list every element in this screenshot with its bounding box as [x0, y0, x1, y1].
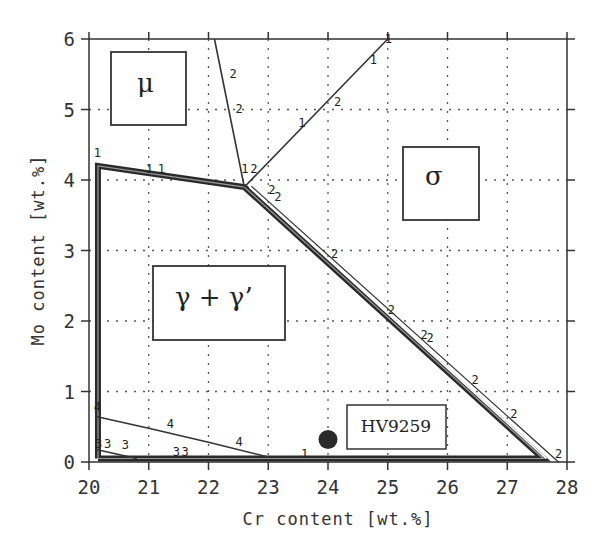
y-tick-label: 2 — [64, 310, 75, 332]
boundary-number-label: 4 — [235, 435, 242, 449]
y-tick-label: 1 — [64, 381, 75, 403]
boundary-number-label: 2 — [250, 162, 257, 176]
x-tick-label: 26 — [436, 476, 459, 498]
sample-point-marker — [319, 430, 338, 449]
boundary-number-label: 3 — [182, 445, 189, 459]
boundary-number-label: 3 — [95, 437, 102, 451]
sample-label: HV9259 — [361, 416, 431, 436]
y-tick-label: 3 — [64, 240, 75, 262]
boundary-number-label: 1 — [385, 32, 392, 46]
y-tick-label: 6 — [64, 28, 75, 50]
boundary-number-label: 3 — [173, 445, 180, 459]
boundary-number-label: 2 — [510, 407, 517, 421]
phase-diagram: 202122232425262728 0123456 1112212221211… — [0, 0, 614, 549]
region-label-mu: μ — [137, 68, 154, 98]
phase-region-labels: μσγ + γ’ — [111, 52, 479, 340]
x-tick-label: 21 — [137, 476, 160, 498]
y-tick-label: 5 — [64, 99, 75, 121]
y-axis-title: Mo content [wt.%] — [28, 155, 48, 346]
boundary-number-label: 1 — [370, 53, 377, 67]
region-label-gamma-gamma-prime: γ + γ’ — [175, 282, 253, 312]
boundary-number-label: 4 — [167, 417, 174, 431]
x-tick-label: 24 — [317, 476, 340, 498]
x-tick-label: 28 — [556, 476, 579, 498]
phase-boundary-line — [244, 39, 387, 187]
y-tick-label: 4 — [64, 169, 75, 191]
boundary-number-label: 1 — [146, 162, 153, 176]
x-tick-label: 23 — [257, 476, 280, 498]
boundary-number-label: 2 — [555, 447, 562, 461]
boundary-number-label: 3 — [122, 438, 129, 452]
x-axis-title: Cr content [wt.%] — [243, 509, 434, 529]
boundary-number-label: 2 — [334, 95, 341, 109]
boundary-number-label: 2 — [331, 247, 338, 261]
boundary-number-label: 1 — [158, 162, 165, 176]
region-label-sigma: σ — [425, 161, 443, 191]
boundary-number-label: 1 — [298, 116, 305, 130]
boundary-number-label: 3 — [104, 437, 111, 451]
boundary-number-label: 4 — [94, 400, 101, 414]
boundary-number-label: 2 — [274, 190, 281, 204]
x-tick-label: 20 — [78, 476, 101, 498]
boundary-number-label: 2 — [427, 331, 434, 345]
boundary-number-label: 1 — [94, 146, 101, 160]
sample-points: HV9259 — [319, 405, 447, 449]
y-tick-label: 0 — [64, 451, 75, 473]
boundary-number-label: 2 — [235, 102, 242, 116]
boundary-number-label: 2 — [471, 373, 478, 387]
boundary-number-label: 2 — [229, 67, 236, 81]
x-tick-label: 22 — [197, 476, 220, 498]
x-tick-label: 27 — [496, 476, 519, 498]
boundary-number-label: 1 — [301, 447, 308, 461]
boundary-number-label: 1 — [241, 162, 248, 176]
x-tick-label: 25 — [376, 476, 399, 498]
boundary-number-label: 2 — [388, 303, 395, 317]
